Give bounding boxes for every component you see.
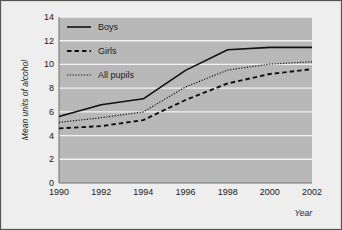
x-tick-label: 1994 <box>133 187 153 197</box>
y-axis-title: Mean units of alcohol <box>20 59 30 140</box>
y-tick-label: 12 <box>44 36 54 46</box>
x-tick-label: 1990 <box>49 187 69 197</box>
line-chart: 0 2 4 6 8 10 12 14 1990 1992 1994 1996 1… <box>1 1 342 230</box>
x-tick-label: 1998 <box>218 187 238 197</box>
x-tick-label: 1996 <box>175 187 195 197</box>
y-tick-label: 6 <box>49 107 54 117</box>
x-axis-tick-labels: 1990 1992 1994 1996 1998 2000 2002 <box>49 187 322 197</box>
x-tick-label: 2000 <box>260 187 280 197</box>
y-axis-tick-labels: 0 2 4 6 8 10 12 14 <box>44 12 54 188</box>
x-tick-label: 2002 <box>302 187 322 197</box>
x-tick-label: 1992 <box>91 187 111 197</box>
x-axis-title: Year <box>295 208 314 218</box>
y-tick-label: 10 <box>44 59 54 69</box>
legend-label-boys: Boys <box>98 22 119 32</box>
legend-label-all-pupils: All pupils <box>98 70 135 80</box>
chart-figure: 0 2 4 6 8 10 12 14 1990 1992 1994 1996 1… <box>0 0 342 230</box>
y-tick-label: 2 <box>49 154 54 164</box>
legend-label-girls: Girls <box>98 46 117 56</box>
y-tick-label: 14 <box>44 12 54 22</box>
y-tick-label: 8 <box>49 83 54 93</box>
y-tick-label: 4 <box>49 131 54 141</box>
